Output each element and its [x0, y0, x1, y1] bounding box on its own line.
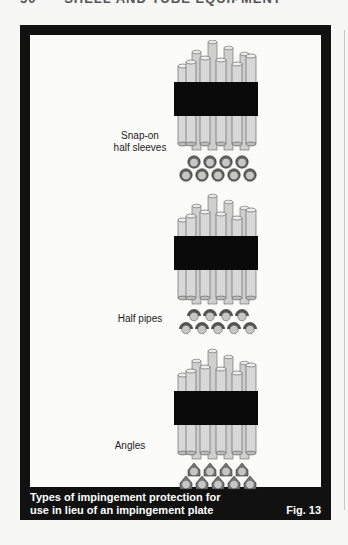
page-number: 50: [20, 0, 36, 6]
figure-number: Fig. 13: [286, 504, 321, 517]
tube-bundle-snap-on-illustration: [172, 40, 262, 185]
figure-area: Snap-on half sleeves Half pipes Angles: [30, 35, 321, 487]
running-head: 50 SHELL AND TUBE EQUIPMENT: [20, 0, 282, 6]
caption-line-1: Types of impingement protection for: [30, 491, 220, 504]
panel-label-half-pipes: Half pipes: [100, 313, 180, 325]
panel-label-angles: Angles: [90, 440, 170, 452]
caption-line-2: use in lieu of an impingement plate: [30, 504, 220, 517]
figure-frame: Snap-on half sleeves Half pipes Angles T…: [20, 25, 331, 520]
page-edge-line: [344, 30, 345, 510]
running-head-title: SHELL AND TUBE EQUIPMENT: [64, 0, 282, 6]
panel-label-snap-on: Snap-on half sleeves: [100, 130, 180, 154]
figure-caption: Types of impingement protection for use …: [30, 490, 321, 520]
tube-bundle-angles-illustration: [172, 345, 262, 495]
tube-bundle-half-pipes-illustration: [172, 190, 262, 340]
